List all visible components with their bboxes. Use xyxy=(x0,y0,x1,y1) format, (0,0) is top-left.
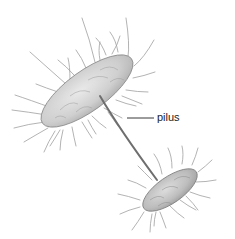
bacterium-small xyxy=(118,146,216,232)
bacterium-large xyxy=(12,18,155,152)
bacteria-conjugation-diagram xyxy=(0,0,235,239)
pilus-label: pilus xyxy=(157,112,180,123)
pilus xyxy=(100,96,157,180)
cell-body-small xyxy=(136,161,203,219)
